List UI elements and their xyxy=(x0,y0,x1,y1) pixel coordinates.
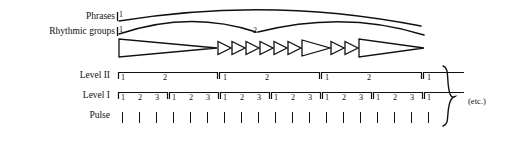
triangle-10 xyxy=(345,42,358,55)
level1-num-5-1: 1 xyxy=(325,94,329,102)
level1-num-3-3: 3 xyxy=(257,94,261,102)
triangle-8 xyxy=(302,40,330,56)
pulse-tick-18 xyxy=(411,112,413,123)
level1-bracket-1 xyxy=(119,93,168,100)
right-curly-brace xyxy=(443,66,455,126)
level1-bracket-3 xyxy=(221,93,270,100)
level2-bracket-3 xyxy=(322,73,422,80)
triangle-2 xyxy=(218,42,231,55)
level2-bracket-1 xyxy=(119,73,218,80)
group-start-marker: 1 xyxy=(119,26,123,34)
level1-bracket-4 xyxy=(272,93,321,100)
level1-num-4-3: 3 xyxy=(308,94,312,102)
pulse-tick-15 xyxy=(360,112,362,123)
level2-num-2-2: 2 xyxy=(265,74,269,82)
level1-bracket-6 xyxy=(374,93,423,100)
triangle-5 xyxy=(260,42,273,55)
group-mid-marker: 2 xyxy=(253,27,257,35)
pulse-tick-12 xyxy=(309,112,311,123)
etc-label: (etc.) xyxy=(468,97,486,106)
level1-num-3-2: 2 xyxy=(240,94,244,102)
level2-bracket-2 xyxy=(220,73,320,80)
level1-num-5-3: 3 xyxy=(359,94,363,102)
level1-num-5-2: 2 xyxy=(342,94,346,102)
level2-bracket-group xyxy=(119,73,465,80)
triangle-group xyxy=(119,39,424,57)
pulse-tick-10 xyxy=(275,112,277,123)
triangle-9 xyxy=(331,42,344,55)
level2-num-3-2: 2 xyxy=(367,74,371,82)
triangle-4 xyxy=(246,42,259,55)
level1-bracket-2 xyxy=(170,93,219,100)
level1-num-2-3: 3 xyxy=(206,94,210,102)
level1-num-6-2: 2 xyxy=(393,94,397,102)
pulse-tick-19 xyxy=(428,112,430,123)
triangle-7 xyxy=(288,42,301,55)
pulse-tick-6 xyxy=(207,112,209,123)
level1-num-3-1: 1 xyxy=(223,94,227,102)
triangle-6 xyxy=(274,42,287,55)
pulse-tick-14 xyxy=(343,112,345,123)
triangle-11 xyxy=(359,39,424,57)
figure-root: Phrases Rhythmic groups Level II Level I… xyxy=(0,0,525,143)
pulse-tick-1 xyxy=(122,112,124,123)
level1-num-4-1: 1 xyxy=(274,94,278,102)
pulse-tick-3 xyxy=(156,112,158,123)
level1-num-1-3: 3 xyxy=(155,94,159,102)
pulse-tick-8 xyxy=(241,112,243,123)
pulse-tick-7 xyxy=(224,112,226,123)
level2-num-4-1: 1 xyxy=(427,74,431,82)
level1-num-6-1: 1 xyxy=(376,94,380,102)
level2-num-2-1: 1 xyxy=(223,74,227,82)
level1-num-2-1: 1 xyxy=(172,94,176,102)
pulse-tick-11 xyxy=(292,112,294,123)
level1-num-4-2: 2 xyxy=(291,94,295,102)
triangle-3 xyxy=(232,42,245,55)
triangle-1 xyxy=(119,39,217,57)
pulse-tick-17 xyxy=(394,112,396,123)
diagram-vector-layer xyxy=(0,0,525,143)
level2-num-1-2: 2 xyxy=(163,74,167,82)
level2-num-3-1: 1 xyxy=(325,74,329,82)
group-arc-1 xyxy=(119,21,256,34)
pulse-tick-16 xyxy=(377,112,379,123)
pulse-tick-9 xyxy=(258,112,260,123)
level1-num-1-1: 1 xyxy=(121,94,125,102)
pulse-tick-4 xyxy=(173,112,175,123)
phrase-start-marker: 1 xyxy=(119,11,123,19)
level1-bracket-5 xyxy=(323,93,372,100)
pulse-tick-13 xyxy=(326,112,328,123)
level1-num-1-2: 2 xyxy=(138,94,142,102)
level1-num-2-2: 2 xyxy=(189,94,193,102)
group-arc-2 xyxy=(258,22,424,35)
pulse-tick-2 xyxy=(139,112,141,123)
level1-num-7-1: 1 xyxy=(427,94,431,102)
level1-num-6-3: 3 xyxy=(410,94,414,102)
level2-num-1-1: 1 xyxy=(121,74,125,82)
pulse-tick-5 xyxy=(190,112,192,123)
